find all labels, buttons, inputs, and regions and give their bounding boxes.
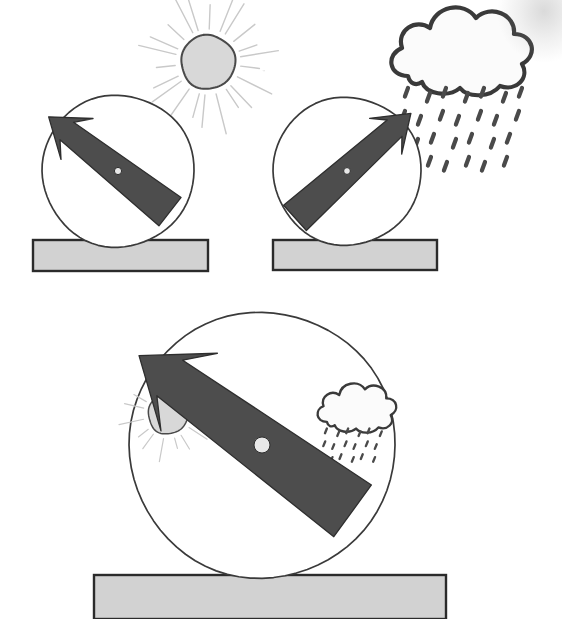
rain-drop-icon — [478, 111, 481, 120]
rain-drop-icon — [440, 111, 443, 120]
sun-disc-icon — [181, 35, 235, 89]
rain-drop-icon — [466, 157, 469, 166]
rain-drop-icon — [453, 139, 456, 148]
rain-drop-icon — [494, 116, 497, 125]
panel-top-right — [273, 7, 532, 270]
needle-pivot — [254, 437, 270, 453]
sun-ray-icon — [231, 86, 252, 108]
pedestal-block — [94, 575, 446, 619]
pedestal-rect — [94, 575, 446, 619]
rain-drop-icon — [516, 111, 519, 120]
rain-drop-icon — [469, 134, 472, 143]
cloud-body-icon — [391, 7, 532, 95]
rain-drop-icon — [503, 93, 506, 102]
rain-drop-icon — [456, 116, 459, 125]
rain-drop-icon — [431, 134, 434, 143]
rain-drop-icon — [444, 162, 447, 171]
rain-drop-icon — [519, 88, 522, 97]
rain-drop-icon — [443, 88, 446, 97]
rain-drop-icon — [504, 157, 507, 166]
sun-ray-icon — [239, 45, 257, 51]
sun-ray-icon — [168, 25, 184, 40]
needle-pivot — [114, 167, 121, 174]
rain-drop-icon — [418, 116, 421, 125]
sun-ray-icon — [209, 5, 210, 29]
diagram-canvas — [0, 0, 562, 619]
sun-ray-icon — [150, 37, 177, 49]
sun-ray-icon — [152, 81, 181, 102]
rain-drop-icon — [507, 134, 510, 143]
sun-ray-icon — [220, 0, 236, 31]
rain-drop-icon — [428, 157, 431, 166]
sun-ray-icon — [234, 24, 255, 41]
rain-drop-icon — [427, 93, 430, 102]
sun-ray-icon — [241, 66, 260, 68]
sun-ray-icon — [156, 65, 175, 67]
sun-ray-icon — [202, 95, 205, 128]
sun-ray-icon — [216, 94, 226, 134]
rain-drop-icon — [491, 139, 494, 148]
rain-drop-icon — [465, 93, 468, 102]
sun-ray-icon — [241, 51, 279, 57]
sun-ray-icon — [193, 94, 199, 118]
sun-ray-icon — [139, 45, 176, 54]
needle-pivot — [344, 168, 351, 175]
panel-bottom — [94, 312, 446, 619]
panel-top-left — [33, 0, 278, 271]
rain-drop-icon — [482, 162, 485, 171]
sun-ray-icon — [237, 77, 271, 94]
rain-drop-icon — [481, 88, 484, 97]
rain-drop-icon — [405, 88, 408, 97]
sun-ray-icon — [225, 4, 244, 34]
barometer-weather-figure — [0, 0, 562, 619]
